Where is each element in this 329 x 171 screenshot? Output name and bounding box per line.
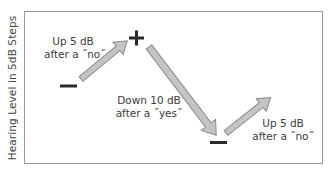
step-label-line2: after a ˝yes˝ xyxy=(113,107,185,120)
down-arrow-icon xyxy=(142,42,224,141)
step-label-line1: Up 5 dB xyxy=(44,35,102,48)
step-label-line1: Down 10 dB xyxy=(113,94,185,107)
step-label-line2: after a ˝no˝ xyxy=(250,130,316,143)
minus-sign-icon xyxy=(60,85,77,88)
step-label-down: Down 10 dB after a ˝yes˝ xyxy=(113,94,185,120)
step-label-line2: after a ˝no˝ xyxy=(44,48,102,61)
plus-sign-icon xyxy=(129,31,144,46)
minus-sign-icon xyxy=(210,141,227,144)
step-label-line1: Up 5 dB xyxy=(250,117,316,130)
step-label-up-2: Up 5 dB after a ˝no˝ xyxy=(250,117,316,143)
step-label-up-1: Up 5 dB after a ˝no˝ xyxy=(44,35,102,61)
staircase-diagram xyxy=(0,0,329,171)
